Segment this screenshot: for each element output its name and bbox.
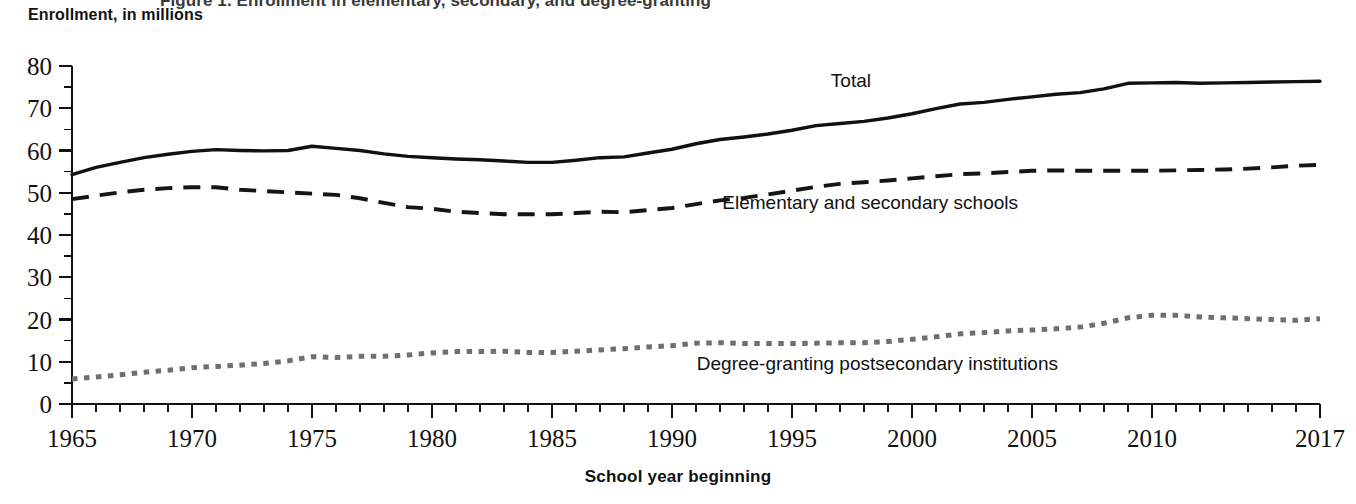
chart-figure: Figure 1. Enrollment in elementary, seco… (0, 0, 1356, 504)
y-tick-label: 10 (27, 349, 52, 376)
x-tick-label: 2000 (887, 425, 937, 452)
y-axis-tick-labels: 01020304050607080 (27, 53, 52, 418)
series-path-0 (72, 81, 1320, 174)
series-path-1 (72, 165, 1320, 214)
series-label-2: Degree-granting postsecondary institutio… (697, 353, 1058, 374)
x-tick-label: 1970 (167, 425, 217, 452)
y-tick-label: 50 (27, 180, 52, 207)
y-tick-label: 0 (40, 391, 53, 418)
y-tick-label: 60 (27, 138, 52, 165)
y-tick-label: 70 (27, 95, 52, 122)
y-axis-ticks-group (59, 66, 72, 404)
x-axis-ticks-group (72, 404, 1320, 418)
x-tick-label: 1965 (47, 425, 97, 452)
x-tick-label: 1985 (527, 425, 577, 452)
series-annotation-labels: TotalElementary and secondary schoolsDeg… (697, 70, 1058, 374)
y-tick-label: 40 (27, 222, 52, 249)
line-chart-plot: 01020304050607080 1965197019751980198519… (0, 0, 1356, 504)
y-tick-label: 30 (27, 264, 52, 291)
y-tick-label: 80 (27, 53, 52, 80)
x-tick-label: 1995 (767, 425, 817, 452)
x-tick-label: 1980 (407, 425, 457, 452)
data-series-group (72, 81, 1320, 379)
x-tick-label: 1975 (287, 425, 337, 452)
x-tick-label: 2017 (1295, 425, 1345, 452)
x-axis-title-wrap: School year beginning (0, 467, 1356, 487)
y-tick-label: 20 (27, 307, 52, 334)
x-tick-label: 2010 (1127, 425, 1177, 452)
x-axis-tick-labels: 1965197019751980198519901995200020052010… (47, 425, 1345, 452)
x-axis-title: School year beginning (585, 467, 772, 487)
x-tick-label: 1990 (647, 425, 697, 452)
series-label-0: Total (831, 70, 871, 91)
series-label-1: Elementary and secondary schools (722, 192, 1018, 213)
x-tick-label: 2005 (1007, 425, 1057, 452)
